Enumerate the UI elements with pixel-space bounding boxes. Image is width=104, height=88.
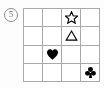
grid-cell-r4-c4	[81, 64, 100, 82]
heart-filled-icon	[46, 48, 59, 61]
star-outline-icon	[65, 11, 78, 24]
grid-cell-r2-c3	[62, 27, 81, 45]
grid-cell-r4-c2	[43, 64, 62, 82]
grid-cell-r2-c2	[43, 27, 62, 45]
grid-cell-r1-c1	[24, 9, 43, 27]
grid-cell-r2-c4	[81, 27, 100, 45]
grid-cell-r4-c3	[62, 64, 81, 82]
grid-cell-r3-c4	[81, 46, 100, 64]
triangle-outline-icon	[65, 30, 78, 41]
grid-cell-r3-c1	[24, 46, 43, 64]
grid-cell-r1-c2	[43, 9, 62, 27]
grid-cell-r2-c1	[24, 27, 43, 45]
grid-cell-r3-c3	[62, 46, 81, 64]
grid-cell-r4-c1	[24, 64, 43, 82]
figure-index-badge: 5	[4, 8, 18, 22]
figure-index-number: 5	[9, 10, 14, 19]
symbol-grid	[23, 8, 100, 82]
grid-cell-r1-c3	[62, 9, 81, 27]
grid-cell-r1-c4	[81, 9, 100, 27]
grid-cell-r3-c2	[43, 46, 62, 64]
puzzle-figure: 5	[0, 0, 104, 88]
club-filled-icon	[84, 66, 97, 79]
